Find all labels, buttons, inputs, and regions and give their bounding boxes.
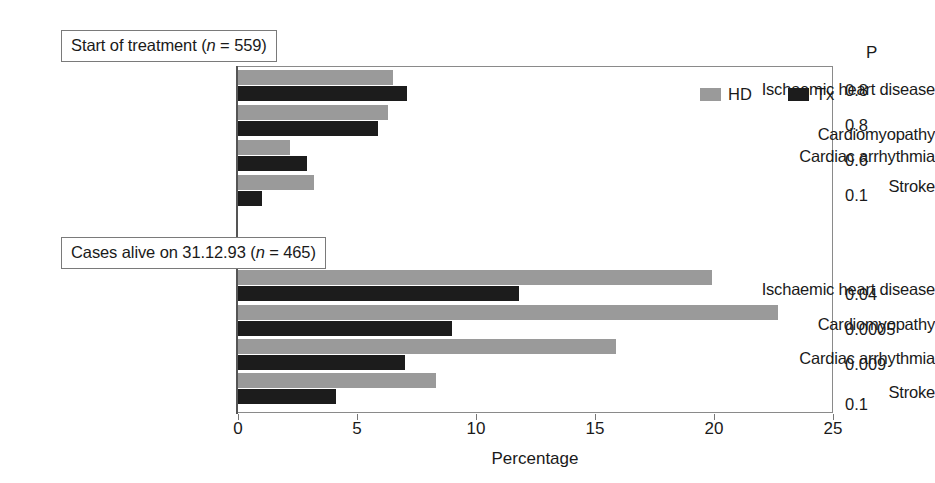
legend-item-tx: Tx <box>788 86 834 103</box>
bar-tx <box>238 191 262 206</box>
p-value: 0.8 <box>845 117 868 134</box>
group-title-start-of-treatment: Start of treatment (n = 559) <box>61 30 277 62</box>
bar-tx <box>238 321 452 336</box>
bar-hd <box>238 70 393 85</box>
bar-hd <box>238 105 388 120</box>
group-title-n-symbol: n <box>207 36 216 54</box>
group-title-prefix: Start of treatment ( <box>71 36 207 54</box>
legend-label-hd: HD <box>728 86 752 103</box>
p-value: 0.1 <box>845 187 868 204</box>
bar-hd <box>238 270 712 285</box>
group-title-prefix: Cases alive on 31.12.93 ( <box>71 243 256 261</box>
legend-swatch-hd-icon <box>700 88 721 101</box>
x-axis-tick-label: 5 <box>352 420 361 437</box>
p-value: 0.1 <box>845 396 868 413</box>
p-value: 0.009 <box>845 356 886 373</box>
bar-tx <box>238 86 407 101</box>
bar-hd <box>238 373 436 388</box>
category-label: Cardiomyopathy <box>703 126 935 143</box>
bar-tx <box>238 156 307 171</box>
group-title-n-symbol: n <box>256 243 265 261</box>
bar-hd <box>238 305 778 320</box>
bar-tx <box>238 121 378 136</box>
bar-hd <box>238 175 314 190</box>
bar-tx <box>238 389 336 404</box>
bar-hd <box>238 339 616 354</box>
category-label: Stroke <box>703 178 935 195</box>
bar-tx <box>238 355 405 370</box>
bar-hd <box>238 140 290 155</box>
x-axis-tick-label: 25 <box>824 420 843 437</box>
x-axis-title: Percentage <box>237 450 833 467</box>
group-title-suffix: = 465) <box>265 243 316 261</box>
legend-item-hd: HD <box>700 86 752 103</box>
group-title-suffix: = 559) <box>216 36 267 54</box>
p-value: 0.6 <box>845 152 868 169</box>
p-value: 0.0005 <box>845 321 895 338</box>
category-label: Cardiac arrhythmia <box>703 148 935 165</box>
category-label: Ischaemic heart disease <box>703 281 935 298</box>
chart-figure: Start of treatment (n = 559) Cases alive… <box>0 0 935 483</box>
x-axis-tick-label: 15 <box>586 420 605 437</box>
legend-label-tx: Tx <box>816 86 834 103</box>
p-value: 0.8 <box>845 82 868 99</box>
legend-swatch-tx-icon <box>788 88 809 101</box>
p-value: 0.04 <box>845 286 877 303</box>
legend: HD Tx <box>700 86 834 103</box>
x-axis-tick-label: 0 <box>233 420 242 437</box>
p-column-header: P <box>866 44 877 61</box>
x-axis-tick-label: 10 <box>467 420 486 437</box>
x-axis-tick-label: 20 <box>705 420 724 437</box>
bar-tx <box>238 286 519 301</box>
group-title-cases-alive: Cases alive on 31.12.93 (n = 465) <box>61 237 326 269</box>
category-label: Cardiac arrhythmia <box>703 350 935 367</box>
category-label: Stroke <box>703 384 935 401</box>
